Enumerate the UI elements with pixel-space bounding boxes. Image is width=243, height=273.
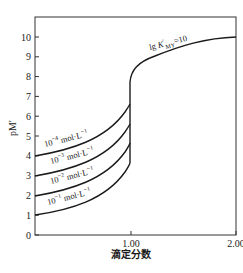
y-tick-label: 8 — [26, 71, 31, 82]
y-tick-label: 1 — [26, 210, 31, 221]
x-axis-ticks: 1.002.00 — [122, 231, 243, 249]
x-tick-label: 2.00 — [227, 238, 243, 249]
y-tick-label: 7 — [26, 91, 31, 102]
y-tick-label: 3 — [26, 170, 31, 181]
y-tick-label: 0 — [26, 230, 31, 241]
y-axis-ticks: 012345678910 — [21, 32, 39, 241]
svg-text:10−4 mol·L−1: 10−4 mol·L−1 — [43, 127, 89, 148]
x-tick-label: 1.00 — [122, 238, 140, 249]
y-tick-label: 6 — [26, 111, 31, 122]
x-axis-title: 滴定分数 — [111, 248, 152, 260]
y-axis-title: pM′ — [7, 120, 18, 136]
titration-chart: 012345678910 1.002.00 pM′ 滴定分数 10−4 mol·… — [0, 0, 243, 273]
y-tick-label: 9 — [26, 51, 31, 62]
y-tick-label: 4 — [26, 150, 31, 161]
y-tick-label: 2 — [26, 190, 31, 201]
label-1e-4: 10−4 mol·L−1 — [43, 127, 89, 148]
y-tick-label: 5 — [26, 131, 31, 142]
y-tick-label: 10 — [21, 32, 31, 43]
